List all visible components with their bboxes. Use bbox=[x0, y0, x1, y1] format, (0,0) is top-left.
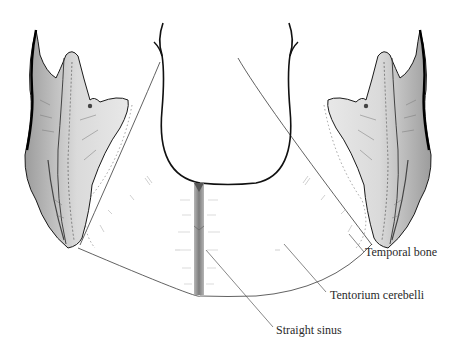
tentorium-cerebelli bbox=[78, 58, 372, 297]
label-straight-sinus: Straight sinus bbox=[276, 324, 342, 336]
tentorium-drawing bbox=[0, 0, 456, 362]
temporal-bone-left bbox=[25, 30, 128, 248]
label-tentorium-cerebelli: Tentorium cerebelli bbox=[330, 289, 424, 301]
tentorial-notch bbox=[154, 23, 298, 185]
label-temporal-bone: Temporal bone bbox=[365, 246, 437, 258]
anatomy-illustration: Temporal bone Tentorium cerebelli Straig… bbox=[0, 0, 456, 362]
leader-lines bbox=[206, 234, 364, 327]
temporal-bone-right bbox=[328, 30, 431, 248]
straight-sinus bbox=[178, 183, 220, 295]
